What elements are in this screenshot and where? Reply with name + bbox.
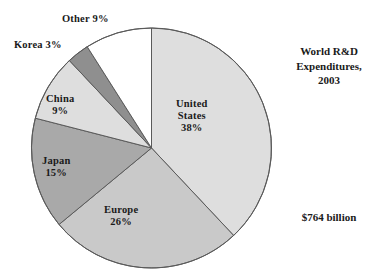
chart-title-line: Expenditures, bbox=[282, 59, 376, 74]
slice-label-line: Japan bbox=[42, 155, 70, 167]
slice-label-japan: Japan 15% bbox=[42, 155, 70, 179]
slice-label-line: 26% bbox=[104, 216, 138, 228]
slice-label-korea: Korea 3% bbox=[14, 39, 62, 51]
slice-label-line: 15% bbox=[42, 167, 70, 179]
chart-title: World R&D Expenditures, 2003 bbox=[282, 44, 376, 88]
slice-label-line: Korea 3% bbox=[14, 39, 62, 51]
chart-title-line: World R&D bbox=[282, 44, 376, 59]
slice-label-line: United bbox=[176, 98, 208, 110]
total-expenditure-value: $764 billion bbox=[280, 211, 378, 223]
pie-slices-group bbox=[32, 28, 272, 268]
slice-label-china: China 9% bbox=[46, 93, 74, 117]
slice-label-line: 9% bbox=[46, 105, 74, 117]
pie-chart-figure: United States 38% Europe 26% Japan 15% C… bbox=[0, 0, 378, 273]
slice-label-other: Other 9% bbox=[62, 13, 109, 25]
slice-label-united-states: United States 38% bbox=[176, 98, 208, 135]
slice-label-line: Europe bbox=[104, 204, 138, 216]
slice-label-line: 38% bbox=[176, 122, 208, 134]
chart-title-line: 2003 bbox=[282, 73, 376, 88]
slice-label-line: Other 9% bbox=[62, 13, 109, 25]
slice-label-line: States bbox=[176, 110, 208, 122]
slice-label-line: China bbox=[46, 93, 74, 105]
slice-label-europe: Europe 26% bbox=[104, 204, 138, 228]
